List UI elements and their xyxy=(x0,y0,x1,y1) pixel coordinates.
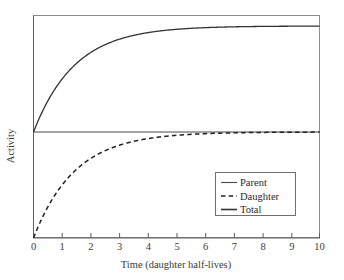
series-line-total xyxy=(34,26,320,132)
y-axis-title: Activity xyxy=(5,128,16,163)
x-tick-label: 3 xyxy=(117,241,122,252)
chart-figure: 0 1 2 3 4 5 6 7 8 9 10 Time (daughter ha… xyxy=(0,0,344,280)
x-tick-label: 10 xyxy=(314,241,325,252)
legend-label-total: Total xyxy=(240,204,262,215)
x-tick-label: 0 xyxy=(31,241,36,252)
legend-label-parent: Parent xyxy=(240,177,267,188)
x-tick-label: 1 xyxy=(60,241,65,252)
x-tick-label: 7 xyxy=(232,241,237,252)
x-tick-label: 8 xyxy=(260,241,265,252)
x-axis-title: Time (daughter half-lives) xyxy=(121,259,232,271)
x-tick-label: 6 xyxy=(203,241,208,252)
x-tick-label: 9 xyxy=(289,241,294,252)
legend-label-daughter: Daughter xyxy=(240,191,280,202)
x-tick-label: 2 xyxy=(88,241,93,252)
x-axis-tick-labels: 0 1 2 3 4 5 6 7 8 9 10 xyxy=(31,241,325,252)
chart-legend: Parent Daughter Total xyxy=(216,173,296,216)
activity-line-chart: 0 1 2 3 4 5 6 7 8 9 10 Time (daughter ha… xyxy=(0,0,344,280)
x-tick-label: 5 xyxy=(174,241,179,252)
x-tick-label: 4 xyxy=(146,241,152,252)
